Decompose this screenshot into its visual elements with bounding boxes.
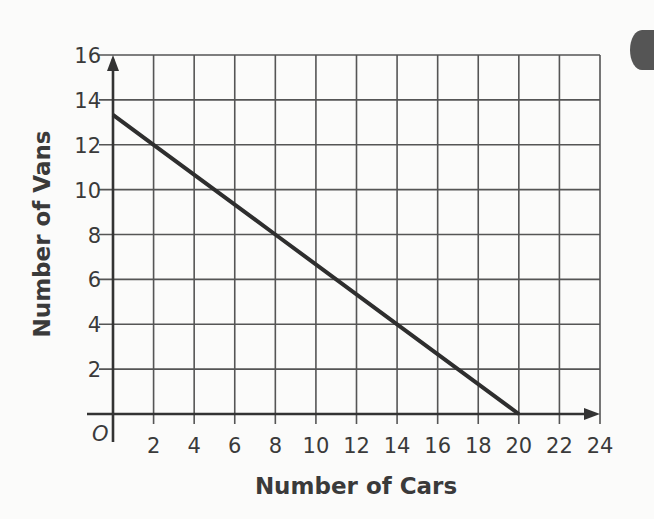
axes xyxy=(87,55,600,442)
y-tick-label: 4 xyxy=(88,313,101,337)
x-tick-labels: 24681012141618202224 xyxy=(147,434,613,458)
y-tick-label: 12 xyxy=(74,134,101,158)
x-tick-label: 16 xyxy=(424,434,451,458)
x-tick-label: 4 xyxy=(187,434,200,458)
origin-label: O xyxy=(92,422,109,446)
x-tick-label: 24 xyxy=(587,434,614,458)
x-tick-label: 12 xyxy=(343,434,370,458)
y-axis-arrow-icon xyxy=(107,55,119,71)
x-axis-title: Number of Cars xyxy=(255,473,457,499)
y-tick-label: 6 xyxy=(88,268,101,292)
y-tick-label: 8 xyxy=(88,224,101,248)
x-tick-label: 10 xyxy=(303,434,330,458)
x-tick-label: 8 xyxy=(269,434,282,458)
x-tick-label: 20 xyxy=(505,434,532,458)
x-tick-label: 22 xyxy=(546,434,573,458)
y-axis-title: Number of Vans xyxy=(29,131,55,338)
x-axis-arrow-icon xyxy=(584,408,600,420)
page-edge-mark xyxy=(630,30,654,70)
y-tick-label: 2 xyxy=(88,358,101,382)
y-tick-label: 14 xyxy=(74,89,101,113)
y-tick-label: 10 xyxy=(74,179,101,203)
x-tick-label: 6 xyxy=(228,434,241,458)
x-tick-label: 14 xyxy=(384,434,411,458)
y-tick-label: 16 xyxy=(74,44,101,68)
x-tick-label: 18 xyxy=(465,434,492,458)
y-tick-labels: 246810121416 xyxy=(74,44,101,382)
grid-lines xyxy=(99,55,600,424)
x-tick-label: 2 xyxy=(147,434,160,458)
